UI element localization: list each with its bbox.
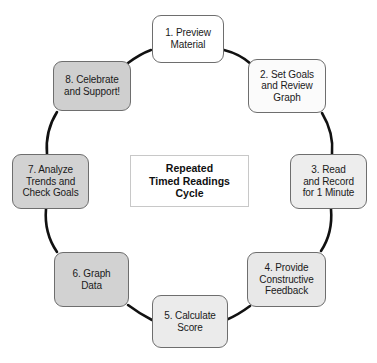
cycle-node-label-step-6: 6. Graph Data	[70, 268, 112, 291]
cycle-node-label-step-2: 2. Set Goals and Review Graph	[258, 69, 316, 104]
center-title-label: Repeated Timed Readings Cycle	[149, 162, 230, 200]
cycle-node-step-3[interactable]: 3. Read and Record for 1 Minute	[290, 154, 367, 209]
cycle-node-label-step-8: 8. Celebrate and Support!	[62, 74, 122, 97]
connector-arc-step-8-to-step-1	[128, 50, 151, 63]
cycle-node-step-6[interactable]: 6. Graph Data	[54, 252, 129, 307]
cycle-node-step-5[interactable]: 5. Calculate Score	[152, 295, 228, 348]
connector-arc-step-2-to-step-3	[322, 113, 332, 154]
cycle-node-step-2[interactable]: 2. Set Goals and Review Graph	[248, 59, 326, 113]
cycle-node-step-8[interactable]: 8. Celebrate and Support!	[53, 61, 131, 111]
cycle-node-label-step-5: 5. Calculate Score	[162, 310, 218, 333]
connector-arc-step-7-to-step-8	[47, 112, 57, 154]
connector-arc-step-4-to-step-5	[226, 306, 250, 320]
cycle-node-label-step-1: 1. Preview Material	[163, 27, 213, 50]
cycle-node-label-step-7: 7. Analyze Trends and Check Goals	[20, 164, 80, 199]
cycle-node-step-7[interactable]: 7. Analyze Trends and Check Goals	[12, 154, 89, 209]
center-title-box: Repeated Timed Readings Cycle	[130, 155, 249, 207]
cycle-diagram: Repeated Timed Readings Cycle 1. Preview…	[0, 0, 377, 363]
connector-arc-step-5-to-step-6	[128, 305, 152, 320]
connector-arc-step-1-to-step-2	[224, 50, 251, 64]
cycle-node-step-4[interactable]: 4. Provide Constructive Feedback	[247, 252, 326, 307]
cycle-node-step-1[interactable]: 1. Preview Material	[152, 15, 224, 63]
cycle-node-label-step-3: 3. Read and Record for 1 Minute	[301, 164, 357, 199]
cycle-node-label-step-4: 4. Provide Constructive Feedback	[257, 262, 315, 297]
connector-arc-step-3-to-step-4	[321, 209, 331, 251]
connector-arc-step-6-to-step-7	[46, 209, 57, 252]
